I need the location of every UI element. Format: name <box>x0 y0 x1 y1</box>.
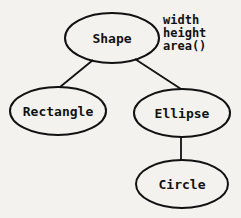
shape-attributes: width height area() <box>163 13 206 53</box>
node-shape: Shape <box>65 13 159 63</box>
attribute-area: area() <box>163 39 206 53</box>
class-hierarchy-diagram: Shape width height area() Rectangle Elli… <box>0 0 241 218</box>
node-rectangle-label: Rectangle <box>23 104 94 119</box>
node-circle-label: Circle <box>159 177 206 192</box>
attribute-height: height <box>163 26 206 40</box>
edge-shape-rectangle <box>60 60 93 87</box>
node-rectangle: Rectangle <box>10 87 106 135</box>
node-ellipse-label: Ellipse <box>155 106 210 121</box>
node-ellipse: Ellipse <box>134 89 230 137</box>
node-shape-label: Shape <box>92 31 131 46</box>
attribute-width: width <box>163 13 199 27</box>
node-circle: Circle <box>136 160 228 208</box>
edge-shape-ellipse <box>135 59 181 89</box>
